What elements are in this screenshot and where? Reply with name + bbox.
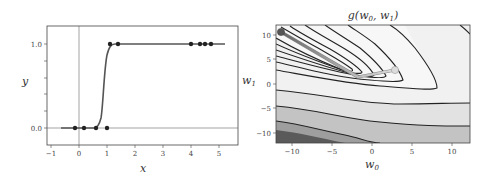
right-ytick: 0 xyxy=(267,81,271,89)
left-xtick: −1 xyxy=(46,150,56,158)
left-xtick: 3 xyxy=(161,150,165,158)
left-ylabel: y xyxy=(21,75,29,88)
right-plot-title: g(w0, w1) xyxy=(348,9,398,23)
right-ytick: 10 xyxy=(262,32,271,40)
figure: −1 0 1 2 3 4 5 0.0 1.0 x y xyxy=(0,0,492,182)
left-xtick: 4 xyxy=(189,150,194,158)
left-xtick: 1 xyxy=(105,150,109,158)
left-plot: −1 0 1 2 3 4 5 0.0 1.0 x y xyxy=(21,26,238,175)
right-xtick: −10 xyxy=(285,148,300,156)
left-xlabel: x xyxy=(140,162,147,175)
right-ytick: 5 xyxy=(267,56,271,64)
right-ytick: −5 xyxy=(261,105,271,113)
left-ytick: 0.0 xyxy=(31,125,42,133)
left-xtick: 5 xyxy=(217,150,221,158)
right-xtick: −5 xyxy=(327,148,337,156)
right-xlabel: w0 xyxy=(365,158,379,172)
right-ylabel: w1 xyxy=(242,74,256,88)
right-plot: −10 −5 0 5 10 10 5 0 −5 −10 g(w0, w1) w0… xyxy=(242,9,470,172)
left-xtick: 0 xyxy=(77,150,81,158)
path-start-point xyxy=(277,28,284,35)
right-xtick: 10 xyxy=(448,148,457,156)
left-ytick: 1.0 xyxy=(31,41,42,49)
left-xtick: 2 xyxy=(133,150,137,158)
right-xtick: 5 xyxy=(410,148,414,156)
right-xtick: 0 xyxy=(370,148,374,156)
path-end-point xyxy=(391,66,398,73)
right-ytick: −10 xyxy=(256,130,271,138)
